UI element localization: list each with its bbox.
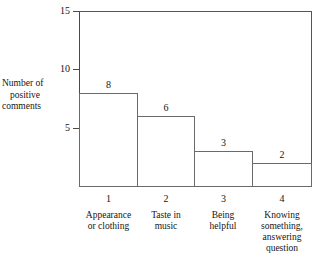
bar-value-label-2: 6 — [137, 103, 195, 113]
bar-category-3 — [194, 151, 253, 187]
x-category-label-4: Knowing something, answering question — [248, 210, 316, 254]
x-tick-label-2: 2 — [137, 194, 195, 204]
y-tick-label-10: 10 — [44, 64, 70, 74]
x-category-label-3: Being helpful — [190, 210, 256, 232]
x-category-label-3-line-2: helpful — [190, 221, 256, 232]
bar-value-label-4: 2 — [252, 150, 312, 160]
bar-category-2 — [137, 116, 195, 187]
x-tick-label-3: 3 — [194, 194, 253, 204]
x-category-label-4-line-3: answering — [248, 232, 316, 243]
y-tick-mark-10 — [73, 69, 79, 70]
y-axis-label-line-1: Number of — [2, 78, 54, 90]
bar-chart: Number of positive comments 15 10 5 8 6 … — [0, 0, 320, 257]
y-axis-label: Number of positive comments — [2, 78, 54, 113]
x-category-label-4-line-1: Knowing — [248, 210, 316, 221]
y-tick-label-5: 5 — [44, 123, 70, 133]
y-axis-label-line-3: comments — [2, 101, 54, 113]
x-category-label-4-line-4: question — [248, 243, 316, 254]
x-tick-label-4: 4 — [252, 194, 312, 204]
y-tick-label-15: 15 — [44, 6, 70, 16]
plot-frame-top — [79, 11, 311, 12]
x-category-label-4-line-2: something, — [248, 221, 316, 232]
x-tick-label-1: 1 — [79, 194, 138, 204]
plot-frame-right — [311, 11, 312, 187]
bar-category-1 — [79, 93, 138, 187]
bar-value-label-3: 3 — [194, 138, 253, 148]
y-tick-mark-15 — [73, 11, 79, 12]
bar-category-4 — [252, 163, 312, 187]
bar-value-label-1: 8 — [79, 80, 138, 90]
x-category-label-3-line-1: Being — [190, 210, 256, 221]
y-axis-label-line-2: positive — [2, 90, 54, 102]
